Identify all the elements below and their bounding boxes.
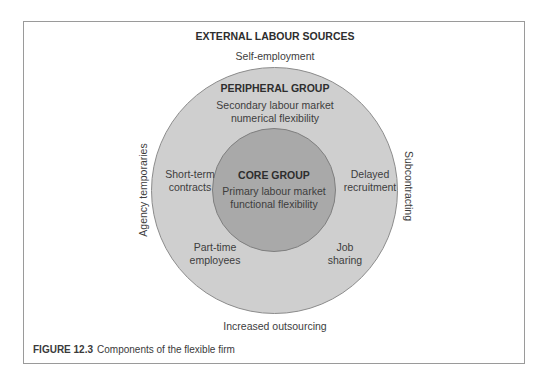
figure-caption-text: Components of the flexible firm xyxy=(97,344,235,355)
external-agency-temporaries: Agency temporaries xyxy=(137,143,150,236)
figure-number: FIGURE 12.3 xyxy=(33,344,93,355)
peripheral-item-part-time-employees: Part-time employees xyxy=(175,241,255,267)
external-self-employment: Self-employment xyxy=(195,50,355,63)
figure-caption: FIGURE 12.3Components of the flexible fi… xyxy=(33,344,235,355)
peripheral-item-delayed-recruitment: Delayed recruitment xyxy=(335,168,405,194)
peripheral-group-subtitle: Secondary labour market numerical flexib… xyxy=(185,99,365,125)
external-increased-outsourcing: Increased outsourcing xyxy=(175,320,375,333)
diagram-title: EXTERNAL LABOUR SOURCES xyxy=(175,30,375,43)
core-group-subtitle: Primary labour market functional flexibi… xyxy=(204,185,344,211)
peripheral-group-title: PERIPHERAL GROUP xyxy=(195,82,355,95)
core-group-title: CORE GROUP xyxy=(214,169,334,182)
peripheral-item-job-sharing: Job sharing xyxy=(315,241,375,267)
